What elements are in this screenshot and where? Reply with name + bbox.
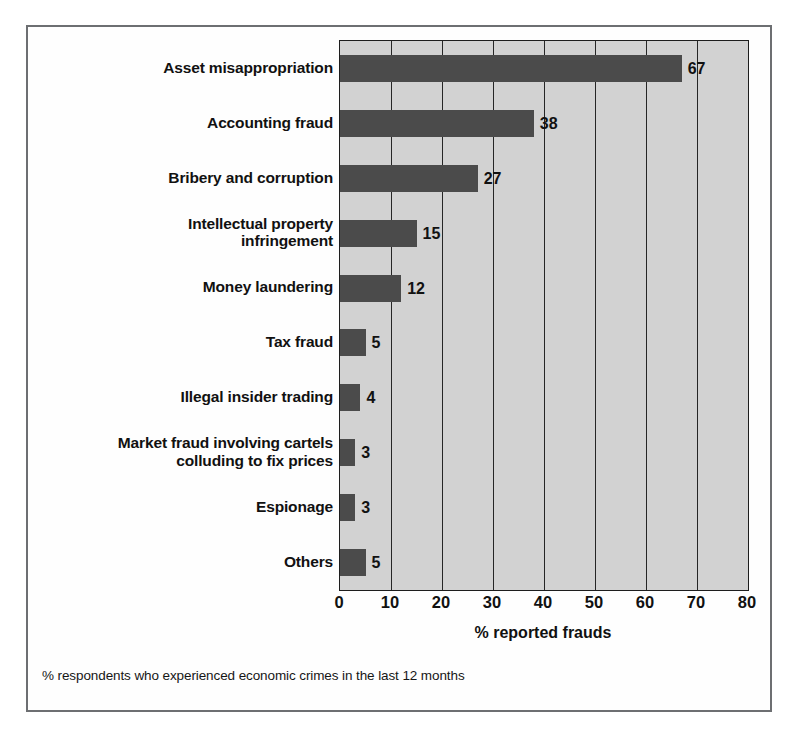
bar-value-label: 3 [361,439,370,466]
bar [340,110,534,137]
category-label: Tax fraud [266,333,333,351]
category-axis: Asset misappropriation Accounting fraud … [28,40,339,589]
x-tick-label: 30 [483,593,501,612]
category-label: Intellectual property infringement [188,215,333,250]
x-tick-label: 60 [636,593,654,612]
bar [340,220,417,247]
category-label: Asset misappropriation [163,59,333,77]
bar-value-label: 5 [372,329,381,356]
x-tick-label: 0 [334,593,343,612]
x-tick-label: 10 [381,593,399,612]
bar-chart: Asset misappropriation Accounting fraud … [28,27,774,714]
gridline [595,41,596,590]
x-tick-label: 50 [585,593,603,612]
x-tick-label: 40 [534,593,552,612]
category-label: Money laundering [203,278,333,296]
x-axis-title: % reported frauds [339,624,747,642]
bar-value-label: 38 [540,110,558,137]
category-label: Accounting fraud [207,114,333,132]
bar [340,275,401,302]
plot-area: 673827151254335 [339,40,749,591]
bar [340,549,366,576]
gridline [697,41,698,590]
figure-frame: Asset misappropriation Accounting fraud … [26,25,772,712]
x-axis-ticks: 01020304050607080 [339,593,751,619]
x-tick-label: 20 [432,593,450,612]
category-label: Espionage [256,498,333,516]
category-label: Illegal insider trading [181,388,333,406]
bar-value-label: 15 [423,220,441,247]
x-tick-label: 80 [738,593,756,612]
chart-footnote: % respondents who experienced economic c… [42,668,465,683]
category-label: Market fraud involving cartels colluding… [118,434,333,469]
bar [340,329,366,356]
bar [340,384,360,411]
category-label: Bribery and corruption [168,169,333,187]
gridline [646,41,647,590]
bar-value-label: 3 [361,494,370,521]
category-label: Others [284,553,333,571]
bar-value-label: 27 [484,165,502,192]
bar-value-label: 5 [372,549,381,576]
bar-value-label: 67 [688,55,706,82]
bar [340,55,682,82]
bar [340,494,355,521]
x-tick-label: 70 [687,593,705,612]
bar-value-label: 12 [407,275,425,302]
bar [340,165,478,192]
bar-value-label: 4 [366,384,375,411]
bar [340,439,355,466]
